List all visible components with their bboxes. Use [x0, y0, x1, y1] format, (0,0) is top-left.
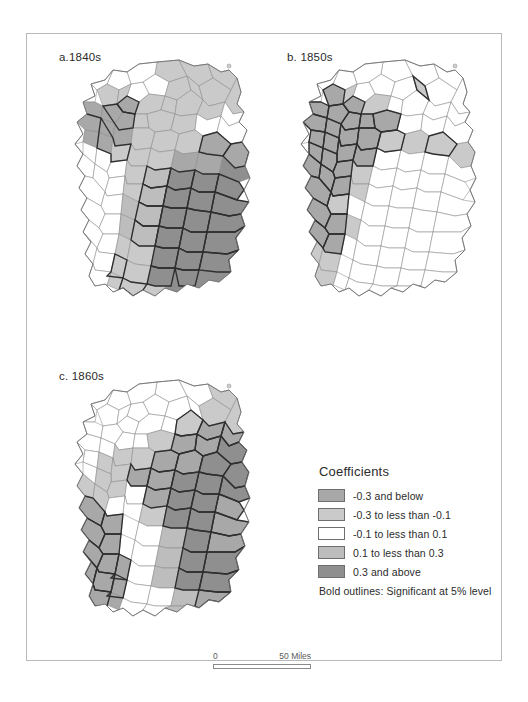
- ireland-map-1840s: [61, 56, 261, 328]
- legend-swatch-4: [318, 565, 345, 578]
- scale-bar-max-label: 50 Miles: [279, 651, 311, 661]
- ireland-map-1850s: [287, 56, 487, 328]
- legend-significance-note: Bold outlines: Significant at 5% level: [319, 585, 518, 597]
- legend-item-4: 0.3 and above: [318, 564, 518, 579]
- legend-item-0: -0.3 and below: [318, 488, 518, 503]
- map-svg-1860s: [61, 376, 261, 648]
- scale-bar: 0 50 Miles: [213, 651, 311, 669]
- legend-label-1: -0.3 to less than -0.1: [353, 509, 451, 521]
- scale-bar-min-label: 0: [213, 651, 218, 661]
- legend-swatch-1: [318, 508, 345, 521]
- legend-item-1: -0.3 to less than -0.1: [318, 507, 518, 522]
- map-panel-1860s: c. 1860s: [27, 344, 263, 644]
- figure-frame: a.1840s: [26, 33, 502, 661]
- legend-item-2: -0.1 to less than 0.1: [318, 526, 518, 541]
- figure-canvas: a.1840s: [0, 0, 528, 702]
- map-svg-1840s: [61, 56, 261, 328]
- map-panel-1840s: a.1840s: [27, 34, 263, 334]
- legend-label-2: -0.1 to less than 0.1: [353, 528, 447, 540]
- legend-swatch-3: [318, 546, 345, 559]
- ireland-map-1860s: [61, 376, 261, 648]
- legend-label-4: 0.3 and above: [353, 566, 421, 578]
- map-panel-1850s: b. 1850s: [259, 34, 497, 334]
- legend-item-3: 0.1 to less than 0.3: [318, 545, 518, 560]
- map-svg-1850s: [287, 56, 487, 328]
- scale-bar-graphic: [213, 664, 311, 669]
- legend-swatch-0: [318, 489, 345, 502]
- scale-bar-labels: 0 50 Miles: [213, 651, 311, 662]
- legend: Coefficients -0.3 and below -0.3 to less…: [318, 464, 518, 597]
- legend-label-3: 0.1 to less than 0.3: [353, 547, 444, 559]
- legend-title: Coefficients: [319, 464, 518, 479]
- legend-label-0: -0.3 and below: [353, 490, 423, 502]
- legend-swatch-2: [318, 527, 345, 540]
